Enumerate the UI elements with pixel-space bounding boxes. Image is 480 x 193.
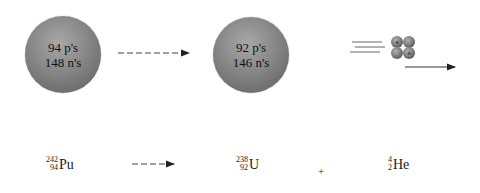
daughter-neutrons-label: 146 n's [233,55,270,70]
motion-lines [350,42,385,52]
product-u-238: 238 92 U [236,156,259,172]
plus-operator: + [318,165,324,177]
reactant-atomic-number: 94 [50,164,58,172]
product-he-4: 4 2 He [388,156,409,172]
product1-symbol: U [249,158,259,172]
daughter-nucleus: 92 p's 146 n's [213,17,289,93]
parent-nucleus: 94 p's 148 n's [25,16,101,93]
product2-atomic-number: 2 [388,164,392,172]
reactant-symbol: Pu [59,158,74,172]
product2-symbol: He [393,158,409,172]
svg-text:+: + [407,50,411,57]
product1-atomic-number: 92 [240,164,248,172]
svg-text:+: + [395,39,399,46]
parent-neutrons-label: 148 n's [45,55,82,70]
reactant-pu-242: 242 94 Pu [46,156,74,172]
parent-protons-label: 94 p's [48,40,78,55]
alpha-particle-icon: + + [391,36,415,59]
daughter-protons-label: 92 p's [236,40,266,55]
